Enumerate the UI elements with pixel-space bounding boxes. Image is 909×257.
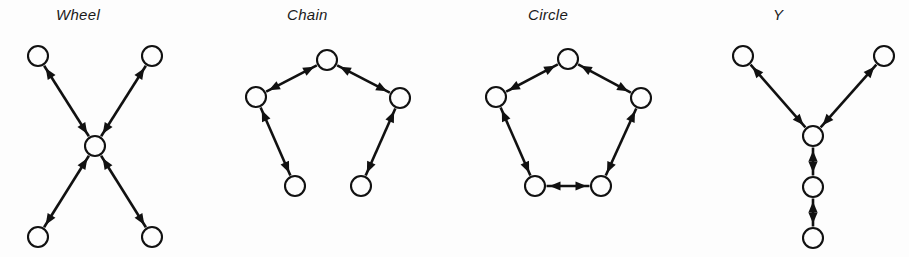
node-y-node-bottom (803, 228, 823, 248)
node-y-node-middle (803, 177, 823, 197)
node-y-node-top-right (874, 46, 894, 66)
edge-y-0-2 (751, 65, 806, 128)
edge-y-3-4 (808, 199, 817, 227)
edge-y-2-3 (808, 148, 817, 176)
node-y-node-top-left (733, 46, 753, 66)
node-y-node-junction (803, 126, 823, 146)
arrowhead-toward-2 (808, 151, 817, 162)
arrowhead-toward-4 (808, 213, 817, 224)
edge-y-1-2 (821, 65, 877, 128)
graph-y (0, 0, 909, 257)
arrowhead-toward-3 (808, 162, 817, 173)
arrowhead-toward-3 (808, 202, 817, 213)
network-structures-figure: WheelChainCircleY (0, 0, 909, 257)
